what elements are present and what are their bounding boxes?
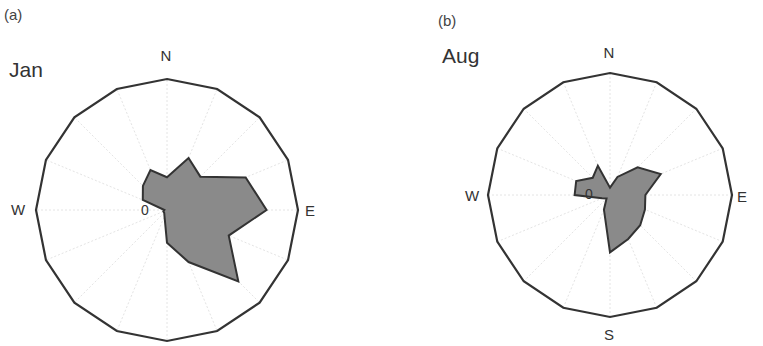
grid-spoke xyxy=(497,195,610,242)
grid-spoke xyxy=(524,195,610,281)
direction-label-north: N xyxy=(161,47,172,64)
direction-label-west: W xyxy=(11,201,25,218)
center-zero-label: 0 xyxy=(141,202,149,218)
wind-rose-chart-aug xyxy=(380,0,763,346)
panel-a: (a) Jan N W E 0 xyxy=(0,0,380,346)
wind-frequency-polygon xyxy=(143,158,267,281)
center-zero-label: 0 xyxy=(585,186,593,202)
direction-label-west: W xyxy=(465,187,479,204)
grid-spoke xyxy=(117,210,167,331)
direction-label-east: E xyxy=(305,202,315,219)
direction-label-south: S xyxy=(604,326,614,343)
wind-rose-chart-jan xyxy=(0,0,380,346)
grid-spoke xyxy=(74,210,167,303)
wind-frequency-polygon xyxy=(575,166,661,253)
direction-label-east: E xyxy=(737,188,747,205)
direction-label-north: N xyxy=(604,44,615,61)
grid-spoke xyxy=(563,195,610,308)
panel-b: (b) Aug N W E S 0 xyxy=(380,0,763,346)
